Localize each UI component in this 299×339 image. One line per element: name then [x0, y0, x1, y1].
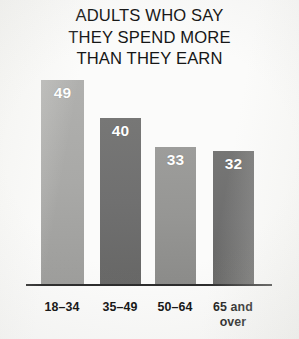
bar-35-49: 40	[100, 118, 141, 285]
bar-50-64: 33	[155, 147, 196, 285]
bar-18-34: 49	[41, 80, 84, 285]
chart-title: ADULTS WHO SAY THEY SPEND MORE THAN THEY…	[0, 5, 299, 70]
x-axis-label-65-and-over: 65 and over	[193, 300, 273, 329]
x-axis-label-50-64-line1: 50–64	[158, 300, 193, 314]
x-axis-label-35-49-line1: 35–49	[103, 300, 138, 314]
x-axis-label-65-and-over-line1: 65 and	[213, 300, 253, 314]
chart-title-line-1: ADULTS WHO SAY	[0, 5, 299, 27]
bar-value-label-18-34: 49	[41, 84, 84, 102]
bar-value-label-35-49: 40	[100, 122, 141, 140]
bar-value-label-50-64: 33	[155, 151, 196, 169]
x-axis-baseline	[26, 284, 272, 286]
bar-chart-figure: ADULTS WHO SAY THEY SPEND MORE THAN THEY…	[0, 0, 299, 339]
chart-title-line-2: THEY SPEND MORE	[0, 27, 299, 49]
bar-65-and-over: 32	[213, 151, 254, 285]
bar-value-label-65-and-over: 32	[213, 155, 254, 173]
x-axis-label-18-34-line1: 18–34	[45, 300, 80, 314]
chart-title-line-3: THAN THEY EARN	[0, 48, 299, 70]
x-axis-category-labels: 18–34 35–49 50–64 65 and over	[0, 300, 299, 339]
x-axis-label-65-and-over-line2: over	[193, 315, 273, 330]
